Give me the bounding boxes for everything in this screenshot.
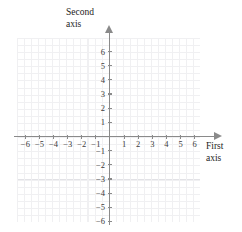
y-tick-label: −4 <box>89 189 105 198</box>
coordinate-plane-figure: −6−5−4−3−2−1123456 654321−1−2−3−4−5−6 Se… <box>0 0 242 232</box>
y-tick <box>108 164 112 165</box>
y-axis-arrowhead-icon <box>105 25 113 33</box>
y-tick <box>108 51 112 52</box>
y-tick <box>108 150 112 151</box>
y-tick-label: −6 <box>89 217 105 226</box>
x-axis-arrowhead-icon <box>214 132 222 140</box>
y-tick <box>108 178 112 179</box>
x-tick-label: 6 <box>187 140 203 149</box>
y-tick <box>108 122 112 123</box>
y-tick <box>108 221 112 222</box>
y-tick-label: 6 <box>89 48 105 57</box>
y-tick <box>108 207 112 208</box>
y-tick-label: 5 <box>89 62 105 71</box>
y-tick <box>108 93 112 94</box>
x-axis-title: First axis <box>206 141 223 164</box>
y-tick <box>108 108 112 109</box>
y-axis-title: Second axis <box>66 7 94 30</box>
y-tick <box>108 193 112 194</box>
y-tick-label: −2 <box>89 161 105 170</box>
y-axis-line <box>109 27 110 225</box>
y-tick-label: −3 <box>89 175 105 184</box>
y-tick <box>108 65 112 66</box>
y-tick-label: 2 <box>89 104 105 113</box>
y-tick-label: 3 <box>89 90 105 99</box>
y-tick-label: −1 <box>89 147 105 156</box>
x-axis-title-line2: axis <box>206 153 223 165</box>
x-axis-title-line1: First <box>206 141 223 153</box>
y-tick-label: −5 <box>89 203 105 212</box>
y-axis-title-line1: Second <box>66 7 94 19</box>
y-tick-label: 4 <box>89 76 105 85</box>
y-axis-title-line2: axis <box>66 19 94 31</box>
x-axis-line <box>14 136 218 137</box>
y-tick <box>108 79 112 80</box>
y-tick-label: 1 <box>89 118 105 127</box>
